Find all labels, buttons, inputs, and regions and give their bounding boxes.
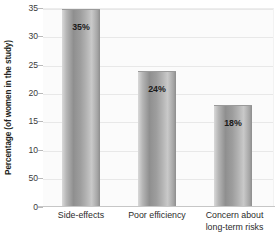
- bar-value-label: 24%: [138, 84, 176, 94]
- y-tick-label: 25: [16, 60, 38, 69]
- y-tick-label: 0: [16, 202, 38, 211]
- x-label-line-1: Concern about: [195, 210, 274, 222]
- bar-value-label: 18%: [214, 118, 252, 128]
- bar-poor-efficiency[interactable]: 24%: [138, 71, 176, 207]
- x-axis-category-labels: Side-effects Poor efficiency Concern abo…: [43, 210, 274, 243]
- y-axis-title-label: Percentage (of women in the study): [4, 40, 13, 175]
- x-label-line-1: Poor efficiency: [119, 210, 195, 222]
- y-tick-label: 10: [16, 146, 38, 155]
- x-label-poor-efficiency: Poor efficiency: [119, 210, 195, 222]
- plot-area: 35% 24% 18%: [43, 8, 274, 207]
- y-tick-label: 20: [16, 89, 38, 98]
- x-label-line-2: long-term risks: [195, 222, 274, 234]
- x-label-concern-long-term-risks: Concern about long-term risks: [195, 210, 274, 233]
- y-tick-label: 30: [16, 32, 38, 41]
- x-axis-line: [38, 206, 275, 207]
- y-tick-label: 50: [16, 174, 38, 183]
- bar-chart: Percentage (of women in the study) 35 30…: [0, 0, 276, 243]
- y-axis-tick-labels: 35 30 25 20 15 10 50 0: [14, 0, 38, 243]
- y-tick-label: 15: [16, 117, 38, 126]
- bar-concern-long-term-risks[interactable]: 18%: [214, 105, 252, 207]
- x-label-line-1: Side-effects: [43, 210, 119, 222]
- bar-side-effects[interactable]: 35%: [62, 9, 100, 208]
- y-tick-label: 35: [16, 4, 38, 13]
- x-label-side-effects: Side-effects: [43, 210, 119, 222]
- bar-value-label: 35%: [62, 22, 100, 32]
- bar-series: 35% 24% 18%: [43, 9, 273, 207]
